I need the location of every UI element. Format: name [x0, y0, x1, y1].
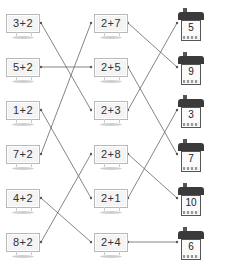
sign-label: 2+3: [95, 102, 127, 119]
house-number: 6: [182, 240, 200, 254]
house-number: 5: [182, 21, 200, 35]
house-icon: 3: [178, 95, 204, 127]
line-2plus8-to-10: [128, 154, 177, 198]
sign-label: 2+4: [95, 234, 127, 251]
left-sign: 5+2: [6, 58, 40, 86]
house-icon: 10: [178, 183, 204, 215]
sign-label: 1+2: [7, 102, 39, 119]
left-sign: 3+2: [6, 14, 40, 42]
house-number: 3: [182, 108, 200, 122]
sign-label: 3+2: [7, 15, 39, 32]
middle-sign: 2+1: [94, 189, 128, 217]
middle-sign: 2+5: [94, 58, 128, 86]
sign-label: 2+7: [95, 15, 127, 32]
sign-label: 4+2: [7, 190, 39, 207]
house-icon: 9: [178, 52, 204, 84]
middle-sign: 2+7: [94, 14, 128, 42]
middle-sign: 2+3: [94, 101, 128, 129]
sign-label: 5+2: [7, 59, 39, 76]
line-1plus2-to-2plus1: [41, 110, 91, 198]
house-number: 10: [182, 196, 200, 210]
house-icon: 7: [178, 139, 204, 171]
house-icon: 6: [178, 227, 204, 259]
sign-label: 2+1: [95, 190, 127, 207]
house-number: 9: [182, 65, 200, 79]
left-sign: 1+2: [6, 101, 40, 129]
line-2plus7-to-9: [128, 23, 177, 67]
matching-worksheet: 3+2 5+2 1+2 7+2 4+2 8+2 2+7 2+5 2+3 2+8 …: [0, 0, 230, 271]
line-8plus2-to-2plus8: [41, 154, 91, 242]
line-4plus2-to-2plus4: [41, 198, 91, 242]
sign-label: 8+2: [7, 234, 39, 251]
line-2plus3-to-5: [128, 23, 177, 110]
line-3plus2-to-2plus3: [41, 23, 91, 110]
left-sign: 8+2: [6, 233, 40, 261]
line-2plus1-to-3: [128, 110, 177, 198]
sign-label: 7+2: [7, 146, 39, 163]
house-icon: 5: [178, 8, 204, 40]
house-number: 7: [182, 152, 200, 166]
middle-sign: 2+4: [94, 233, 128, 261]
left-sign: 4+2: [6, 189, 40, 217]
line-7plus2-to-2plus7: [41, 23, 91, 154]
middle-sign: 2+8: [94, 145, 128, 173]
left-sign: 7+2: [6, 145, 40, 173]
sign-label: 2+8: [95, 146, 127, 163]
line-2plus5-to-7: [128, 67, 177, 154]
sign-label: 2+5: [95, 59, 127, 76]
